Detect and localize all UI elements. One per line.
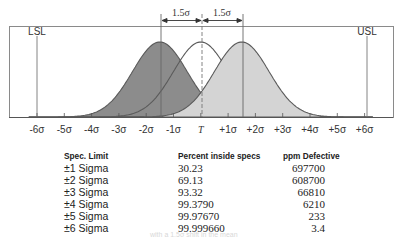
row-spec: ±6 Sigma <box>64 222 108 234</box>
row-percent: 69.13 <box>178 174 203 186</box>
row-spec: ±3 Sigma <box>64 186 108 198</box>
row-spec: ±4 Sigma <box>64 198 108 210</box>
row-ppm: 66810 <box>265 186 325 198</box>
figure-caption: with a 1.5σ shift in the mean <box>150 231 238 238</box>
header-percent-inside: Percent inside specs <box>178 150 260 162</box>
row-spec: ±2 Sigma <box>64 174 108 186</box>
row-spec: ±5 Sigma <box>64 210 108 222</box>
row-ppm: 608700 <box>265 174 325 186</box>
row-ppm: 6210 <box>265 198 325 210</box>
row-percent: 30.23 <box>178 162 203 174</box>
row-percent: 93.32 <box>178 186 203 198</box>
row-percent: 99.3790 <box>178 198 214 210</box>
sigma-table: Spec. Limit Percent inside specs ppm Def… <box>0 0 401 240</box>
row-ppm: 3.4 <box>265 222 325 234</box>
header-ppm-defective: ppm Defective <box>283 150 340 162</box>
row-ppm: 233 <box>265 210 325 222</box>
row-spec: ±1 Sigma <box>64 162 108 174</box>
row-ppm: 697700 <box>265 162 325 174</box>
header-spec-limit: Spec. Limit <box>64 150 108 162</box>
row-percent: 99.97670 <box>178 210 219 222</box>
